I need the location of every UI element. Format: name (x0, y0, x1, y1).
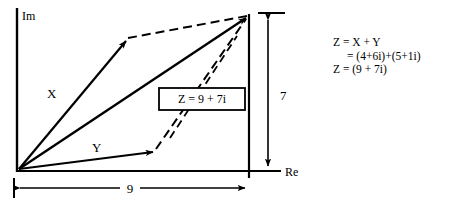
equation-line-3: Z = (9 + 7i) (333, 63, 458, 77)
complex-plane-figure: Im Re X Y Z = 9 + 7i (0, 0, 463, 210)
horizontal-dimension-label: 9 (127, 181, 134, 196)
dashed-line-x-to-apex (128, 16, 247, 38)
equation-line-2: = (4+6i)+(5+1i) (333, 50, 458, 64)
equation-block: Z = X + Y = (4+6i)+(5+1i) Z = (9 + 7i) (333, 36, 458, 77)
vector-x-label: X (47, 86, 57, 101)
imaginary-axis-label: Im (22, 9, 36, 23)
vertical-dimension-label: 7 (280, 88, 287, 103)
z-callout-box: Z = 9 + 7i (159, 88, 245, 110)
vector-x-arrow (19, 41, 126, 169)
vector-y-label: Y (92, 140, 102, 155)
dashed-line-y-to-apex (156, 19, 246, 149)
equation-line-1: Z = X + Y (333, 36, 458, 50)
horizontal-dimension-group: 9 (14, 178, 245, 198)
callout-box-text: Z = 9 + 7i (178, 92, 227, 106)
vector-addition-diagram: Im Re X Y Z = 9 + 7i (0, 0, 463, 210)
dashed-leader-line (170, 36, 237, 138)
vertical-dimension-group: 7 (258, 13, 287, 166)
construction-lines-group (128, 16, 247, 149)
callout-leader-group (170, 36, 237, 138)
real-axis-label: Re (285, 165, 298, 179)
